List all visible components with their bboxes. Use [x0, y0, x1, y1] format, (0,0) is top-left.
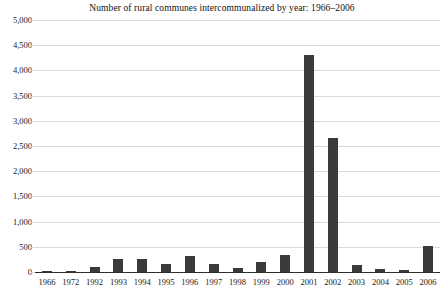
y-axis-tick-label: 1,500: [0, 192, 32, 201]
bar: [256, 262, 266, 272]
y-axis-tick-mark: [30, 70, 34, 71]
x-axis-tick-labels: 1966197219921993199419951996199719981999…: [35, 277, 440, 293]
bar: [233, 268, 243, 272]
y-axis-tick-mark: [30, 247, 34, 248]
bar: [113, 259, 123, 272]
y-axis-tick-mark: [30, 20, 34, 21]
bar: [137, 259, 147, 272]
y-axis-tick-label: 1,000: [0, 218, 32, 227]
bar: [161, 264, 171, 272]
y-axis-tick-label: 5,000: [0, 16, 32, 25]
y-axis-tick-label: 0: [0, 268, 32, 277]
y-axis-tick-label: 3,500: [0, 92, 32, 101]
bar: [304, 55, 314, 272]
x-axis-tick-label: 2006: [411, 277, 444, 287]
bar: [375, 269, 385, 272]
y-axis-tick-mark: [30, 272, 34, 273]
x-axis-line: [35, 272, 440, 273]
y-axis-tick-label: 2,000: [0, 167, 32, 176]
y-axis-tick-mark: [30, 45, 34, 46]
y-axis-tick-label: 500: [0, 243, 32, 252]
bar: [399, 270, 409, 272]
y-axis-tick-label: 2,500: [0, 142, 32, 151]
y-axis-tick-label: 4,500: [0, 41, 32, 50]
plot-area: [35, 20, 440, 272]
bar: [423, 246, 433, 272]
y-axis-tick-mark: [30, 196, 34, 197]
y-axis-tick-mark: [30, 121, 34, 122]
bar: [209, 264, 219, 272]
bar: [42, 271, 52, 273]
y-axis-tick-label: 3,000: [0, 117, 32, 126]
bar: [280, 255, 290, 272]
y-axis-tick-labels: 5,0004,5004,0003,5003,0002,5002,0001,500…: [0, 20, 32, 272]
bars-layer: [35, 20, 440, 272]
y-axis-tick-mark: [30, 96, 34, 97]
bar: [352, 265, 362, 272]
chart-title: Number of rural communes intercommunaliz…: [0, 2, 444, 14]
bar: [185, 256, 195, 272]
y-axis-tick-mark: [30, 146, 34, 147]
y-axis-tick-mark: [30, 222, 34, 223]
bar: [90, 267, 100, 272]
y-axis-tick-label: 4,000: [0, 66, 32, 75]
bar: [328, 138, 338, 272]
y-axis-tick-mark: [30, 171, 34, 172]
bar: [66, 271, 76, 272]
bar-chart: Number of rural communes intercommunaliz…: [0, 0, 444, 298]
